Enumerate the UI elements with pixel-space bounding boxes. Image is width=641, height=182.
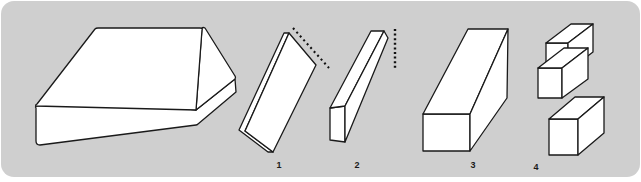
cube-middle-left-face [538,68,562,98]
shape-label-4: 4 [533,162,538,172]
figure-panel: 1 2 3 4 [0,0,641,182]
cube-bottom-left-face [549,119,578,155]
figure-illustration: 1 2 3 4 [0,0,641,182]
shape-label-2: 2 [354,160,359,170]
shape-label-3: 3 [470,160,475,170]
bar2-end-face [330,106,345,142]
bar3-end-face [423,114,470,151]
shape-label-1: 1 [276,160,281,170]
